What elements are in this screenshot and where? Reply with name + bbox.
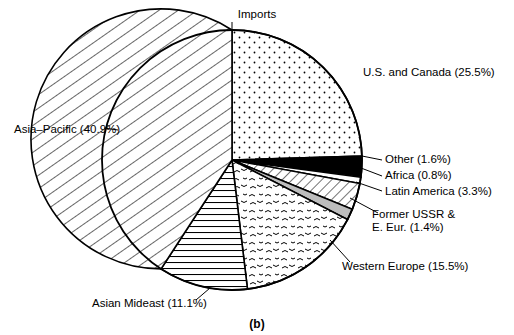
label-latin-america: Latin America (3.3%)	[385, 185, 492, 198]
slice-us-and-canada	[232, 30, 362, 160]
label-former-ussr-line2: E. Eur. (1.4%)	[372, 221, 444, 234]
pie-chart-svg	[0, 0, 514, 335]
label-us-and-canada: U.S. and Canada (25.5%)	[363, 66, 495, 79]
pie-chart-figure: Imports	[0, 0, 514, 335]
label-former-ussr-line1: Former USSR &	[372, 208, 455, 221]
figure-caption: (b)	[0, 317, 514, 331]
label-africa: Africa (0.8%)	[385, 169, 451, 182]
label-asian-mideast: Asian Mideast (11.1%)	[92, 297, 207, 310]
pie-slices	[31, 9, 362, 290]
label-western-europe: Western Europe (15.5%)	[342, 260, 468, 273]
label-other: Other (1.6%)	[385, 153, 451, 166]
label-asia-pacific: Asia–Pacific (40.9%)	[14, 123, 120, 136]
chart-title: Imports	[0, 8, 514, 20]
